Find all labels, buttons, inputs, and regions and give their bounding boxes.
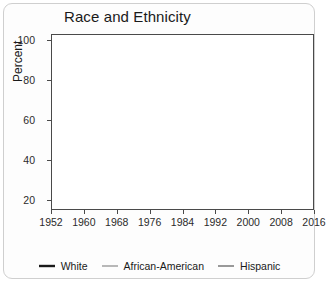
y-tick-label: 60 <box>23 114 35 126</box>
legend-line-icon <box>38 262 56 270</box>
plot-area <box>51 34 314 210</box>
x-tick-mark <box>51 210 52 214</box>
legend-item[interactable]: White <box>38 260 88 272</box>
legend-line-icon <box>217 262 235 270</box>
x-tick-label: 1952 <box>39 216 62 228</box>
x-tick-mark <box>183 210 184 214</box>
x-tick-mark <box>84 210 85 214</box>
chart-card: Race and Ethnicity Percent 20406080100 1… <box>3 3 315 279</box>
y-tick-label: 40 <box>23 154 35 166</box>
x-tick-label: 1992 <box>204 216 227 228</box>
x-tick-mark <box>150 210 151 214</box>
legend-item[interactable]: African-American <box>101 260 205 272</box>
y-tick-label: 80 <box>23 74 35 86</box>
x-tick-label: 2000 <box>237 216 260 228</box>
x-tick-label: 1984 <box>171 216 194 228</box>
y-tick-label: 20 <box>23 194 35 206</box>
chart-title: Race and Ethnicity <box>64 8 191 25</box>
x-tick-mark <box>314 210 315 214</box>
x-tick-label: 2008 <box>269 216 292 228</box>
x-tick-label: 1968 <box>105 216 128 228</box>
x-tick-mark <box>215 210 216 214</box>
x-tick-mark <box>281 210 282 214</box>
legend-item[interactable]: Hispanic <box>217 260 280 272</box>
chart-legend: WhiteAfrican-AmericanHispanic <box>4 260 314 272</box>
x-tick-label: 1960 <box>72 216 95 228</box>
x-tick-mark <box>248 210 249 214</box>
legend-label: White <box>61 260 88 272</box>
x-tick-label: 2016 <box>302 216 325 228</box>
legend-label: Hispanic <box>240 260 280 272</box>
plot-frame <box>51 34 314 210</box>
x-tick-mark <box>117 210 118 214</box>
legend-label: African-American <box>124 260 205 272</box>
x-tick-label: 1976 <box>138 216 161 228</box>
legend-line-icon <box>101 262 119 270</box>
y-tick-label: 100 <box>17 34 35 46</box>
